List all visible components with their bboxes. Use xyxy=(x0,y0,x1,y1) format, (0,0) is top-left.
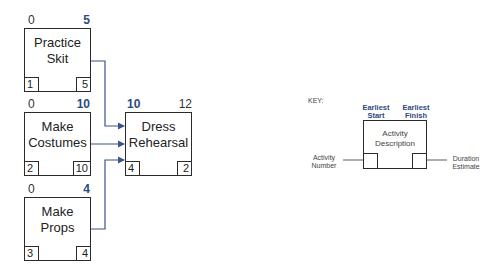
edge-make-props-to-dress-rehearsal xyxy=(91,160,124,229)
key-activity-number-label: Activity Number xyxy=(306,154,342,170)
duration-estimate: 4 xyxy=(76,246,91,261)
key-activity-number-box xyxy=(363,153,378,169)
activity-node-make-costumes[interactable]: Make Costumes 2 10 xyxy=(24,112,91,176)
activity-node-make-props[interactable]: Make Props 3 4 xyxy=(24,197,91,261)
earliest-start-make-costumes: 0 xyxy=(28,98,35,110)
earliest-finish-dress-rehearsal: 12 xyxy=(168,98,192,110)
activity-node-practice-skit[interactable]: Practice Skit 1 5 xyxy=(24,28,91,92)
activity-description: Make Costumes xyxy=(25,119,90,151)
earliest-finish-make-props: 4 xyxy=(70,183,90,195)
key-earliest-start-label: Earliest Start xyxy=(356,104,396,120)
duration-estimate: 2 xyxy=(177,161,192,176)
duration-estimate: 5 xyxy=(76,77,91,92)
key-title: KEY: xyxy=(308,97,324,105)
key-duration-estimate-label: Duration Estimate xyxy=(448,155,484,171)
key-activity-description: Activity Description xyxy=(364,129,426,149)
key-duration-box xyxy=(412,153,427,169)
earliest-finish-practice-skit: 5 xyxy=(70,14,90,26)
earliest-finish-make-costumes: 10 xyxy=(66,98,90,110)
activity-node-dress-rehearsal[interactable]: Dress Rehearsal 4 2 xyxy=(125,112,192,176)
key-earliest-finish-label: Earliest Finish xyxy=(396,104,436,120)
activity-number: 2 xyxy=(24,161,39,176)
activity-number: 3 xyxy=(24,246,39,261)
activity-description: Dress Rehearsal xyxy=(126,119,191,151)
edge-practice-skit-to-dress-rehearsal xyxy=(91,61,124,126)
earliest-start-practice-skit: 0 xyxy=(28,14,35,26)
earliest-start-dress-rehearsal: 10 xyxy=(127,98,140,110)
activity-number: 1 xyxy=(24,77,39,92)
activity-description: Make Props xyxy=(25,204,90,236)
duration-estimate: 10 xyxy=(73,161,91,176)
earliest-start-make-props: 0 xyxy=(28,183,35,195)
activity-description: Practice Skit xyxy=(25,35,90,67)
activity-number: 4 xyxy=(125,161,140,176)
key-activity-node: Activity Description xyxy=(363,120,427,169)
